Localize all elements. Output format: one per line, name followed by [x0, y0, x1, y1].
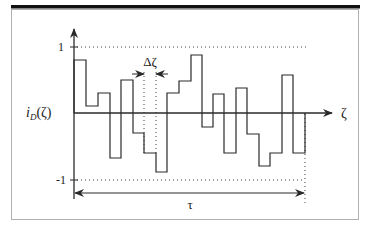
y-axis-label: iD(ζ): [26, 105, 52, 122]
top-rule: [11, 5, 360, 9]
step-waveform-diagram: 1 -1 Δζ τ ζ iD(ζ): [0, 0, 369, 228]
x-axis-label-zeta: ζ: [341, 106, 347, 121]
tick-label-plus-one: 1: [58, 40, 64, 54]
y-label-arg: (ζ): [36, 105, 51, 121]
tick-label-minus-one: -1: [56, 173, 66, 187]
period-tau-label: τ: [187, 197, 192, 212]
delta-zeta-label: Δζ: [143, 54, 157, 69]
